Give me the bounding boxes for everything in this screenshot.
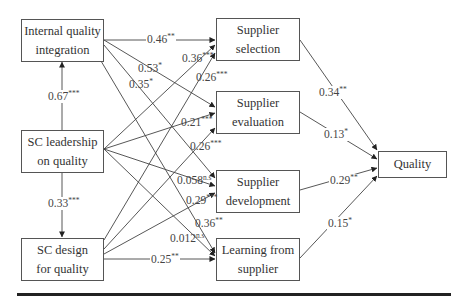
edge-label-scd-lfs: 0.25** xyxy=(150,253,180,266)
edge-label-scl-scd: 0.33*** xyxy=(47,197,80,210)
edge-label-scl-iqi: 0.67*** xyxy=(47,90,80,103)
edge-label-ss-q: 0.34** xyxy=(318,86,348,99)
node-supplier-evaluation: Supplierevaluation xyxy=(216,91,300,134)
node-label-line2: supplier xyxy=(222,260,295,278)
edge-label-scd-se: 0.26*** xyxy=(189,140,222,153)
edge-label-scl-ss: 0.36*** xyxy=(181,52,214,65)
edge-label-se-q: 0.13* xyxy=(323,128,349,141)
edge-label-iqi-se: 0.53* xyxy=(137,62,163,75)
node-label-line1: Internal quality xyxy=(24,22,101,40)
edge-label-iqi-ss: 0.46** xyxy=(146,33,176,46)
node-sc-leadership-on-quality: SC leadershipon quality xyxy=(21,130,104,173)
edge-label-scl-sd: 0.058n.s xyxy=(176,174,212,187)
node-learning-from-supplier: Learning fromsupplier xyxy=(216,238,300,281)
node-label-line2: integration xyxy=(24,41,101,59)
edge-label-lfs-q: 0.15* xyxy=(327,217,353,230)
node-supplier-development: Supplierdevelopment xyxy=(216,170,300,213)
path-diagram: Internal qualityintegration SC leadershi… xyxy=(0,0,466,301)
node-sc-design-for-quality: SC designfor quality xyxy=(21,238,104,281)
node-label-line2: for quality xyxy=(36,260,88,278)
node-label-line2: on quality xyxy=(28,152,98,170)
edge-label-scl-se: 0.21*** xyxy=(180,116,213,129)
node-internal-quality-integration: Internal qualityintegration xyxy=(21,19,104,62)
edge-label-iqi-lfs: 0.36** xyxy=(194,217,224,230)
node-label-line2: development xyxy=(226,192,291,210)
node-label-line1: Supplier xyxy=(226,173,291,191)
edge-label-iqi-sd: 0.35* xyxy=(128,78,154,91)
edge-label-scd-ss: 0.26*** xyxy=(195,71,228,84)
node-label-line2: evaluation xyxy=(232,113,284,131)
edge-label-scl-lfs: 0.012n.s xyxy=(169,232,205,245)
node-label-line1: Supplier xyxy=(236,21,280,39)
bottom-rule xyxy=(17,293,451,296)
node-label-line1: SC design xyxy=(36,241,88,259)
node-label: Quality xyxy=(394,155,432,173)
edge-label-scd-sd: 0.29*** xyxy=(185,194,218,207)
edge-label-sd-q: 0.29** xyxy=(329,174,359,187)
node-label-line2: selection xyxy=(236,40,280,58)
node-label-line1: Learning from xyxy=(222,241,295,259)
node-supplier-selection: Supplierselection xyxy=(216,18,300,61)
node-label-line1: SC leadership xyxy=(28,133,98,151)
node-label-line1: Supplier xyxy=(232,94,284,112)
node-quality: Quality xyxy=(378,151,447,178)
